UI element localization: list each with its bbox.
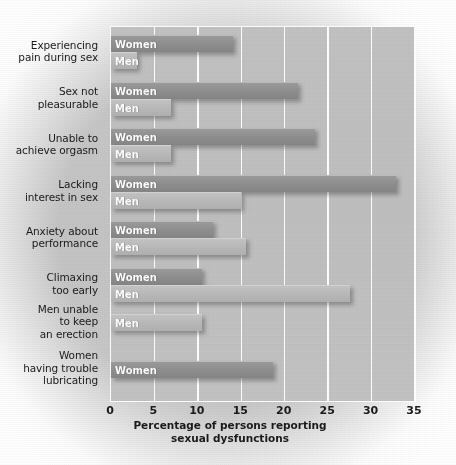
bar-row: Men (111, 145, 415, 162)
bar-men: Men (111, 314, 202, 331)
bar-women: Women (111, 82, 298, 99)
bar-women: Women (111, 175, 396, 192)
bar-row: Women (111, 128, 415, 145)
bar-row: Men (111, 238, 415, 255)
category-label: Women having trouble lubricating (23, 349, 98, 387)
bar-series-label: Women (115, 178, 157, 189)
bar-men: Men (111, 145, 171, 162)
bar-series-label: Men (115, 288, 139, 299)
bar-women: Women (111, 361, 273, 378)
category-label: Anxiety about performance (26, 225, 98, 250)
category-label-column: Experiencing pain during sexSex not plea… (0, 22, 104, 400)
x-tick-label: 30 (356, 404, 386, 417)
x-tick-label: 0 (95, 404, 125, 417)
bar-row: Men (111, 314, 415, 331)
bar-series-label: Women (115, 271, 157, 282)
category-label: Climaxing too early (47, 271, 98, 296)
bar-row: Women (111, 361, 415, 378)
bar-series-label: Women (115, 225, 157, 236)
bar-men: Men (111, 285, 350, 302)
bar-series-label: Women (115, 85, 157, 96)
category-label: Unable to achieve orgasm (16, 132, 98, 157)
bar-row: Women (111, 82, 415, 99)
bar-women: Women (111, 221, 213, 238)
bar-row: Women (111, 268, 415, 285)
bar-men: Men (111, 238, 246, 255)
bar-row: Men (111, 99, 415, 116)
x-tick-label: 20 (269, 404, 299, 417)
x-tick-label: 5 (138, 404, 168, 417)
bar-men: Men (111, 192, 241, 209)
x-tick-label: 25 (312, 404, 342, 417)
bar-women: Women (111, 268, 202, 285)
bar-row: Men (111, 52, 415, 69)
category-label: Experiencing pain during sex (18, 39, 98, 64)
bar-row: Women (111, 175, 415, 192)
bar-series-label: Men (115, 195, 139, 206)
bar-series-label: Women (115, 364, 157, 375)
bar-series-label: Men (115, 56, 139, 67)
bar-series-label: Women (115, 39, 157, 50)
sexual-dysfunction-bar-chart: Experiencing pain during sexSex not plea… (0, 0, 456, 465)
bar-series-label: Men (115, 149, 139, 160)
plot-area: WomenMenWomenMenWomenMenWomenMenWomenMen… (110, 26, 416, 402)
x-tick-label: 10 (182, 404, 212, 417)
bar-series-label: Men (115, 102, 139, 113)
bar-women: Women (111, 35, 233, 52)
bar-series-label: Women (115, 132, 157, 143)
x-axis-title: Percentage of persons reporting sexual d… (60, 419, 400, 445)
bar-series-label: Men (115, 318, 139, 329)
bar-men: Men (111, 52, 137, 69)
bar-series-label: Men (115, 242, 139, 253)
bar-row: Men (111, 285, 415, 302)
bar-women: Women (111, 128, 315, 145)
bar-row: Men (111, 192, 415, 209)
category-label: Lacking interest in sex (25, 178, 98, 203)
x-tick-label: 15 (225, 404, 255, 417)
bar-row: Women (111, 35, 415, 52)
bar-men: Men (111, 99, 171, 116)
category-label: Men unable to keep an erection (38, 303, 98, 341)
bar-row: Women (111, 221, 415, 238)
x-tick-label: 35 (399, 404, 429, 417)
category-label: Sex not pleasurable (38, 85, 98, 110)
